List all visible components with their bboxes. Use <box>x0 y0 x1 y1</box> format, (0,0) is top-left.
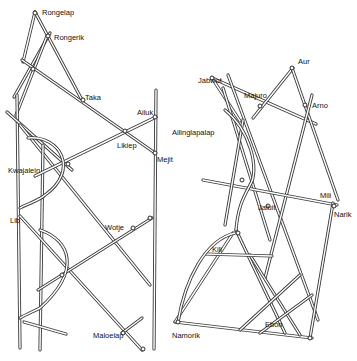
label-ebon: Ebon <box>265 320 283 329</box>
label-mejit: Mejit <box>157 155 174 164</box>
label-likiep: Likiep <box>117 141 137 150</box>
label-namorik: Namorik <box>172 331 200 340</box>
label-kwajalein: Kwajalein <box>8 166 40 175</box>
label-taka: Taka <box>85 93 102 102</box>
label-ailuk: Ailuk <box>137 108 154 117</box>
label-kili: Kili <box>212 245 222 254</box>
label-majuro: Majuro <box>244 91 267 100</box>
label-mili: Mili <box>320 191 332 200</box>
label-maloelap: Maloelap <box>93 331 123 340</box>
label-jabwot: Jabwot <box>198 76 223 85</box>
label-wotje: Wotje <box>105 223 124 232</box>
left-stick-chart <box>7 11 157 351</box>
label-arno: Arno <box>312 101 328 110</box>
label-rongerik: Rongerik <box>54 33 84 42</box>
label-rongelap: Rongelap <box>42 8 74 17</box>
label-ailinglapalap: Ailinglapalap <box>172 128 215 137</box>
stick-chart-diagram: Rongelap Rongerik Taka Ailuk Likiep Meji… <box>0 0 357 361</box>
label-lib: Lib <box>10 216 20 225</box>
label-narik: Narik <box>334 210 352 219</box>
label-jaluit: Jaluit <box>258 203 276 212</box>
label-aur: Aur <box>298 57 310 66</box>
